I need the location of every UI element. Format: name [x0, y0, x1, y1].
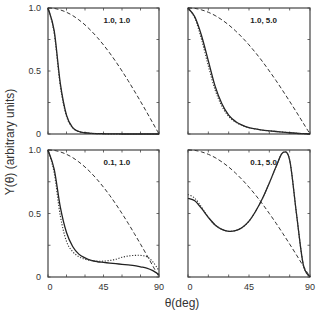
panel-top-right: 1.0, 5.0 [188, 8, 310, 134]
y-tick-label: 1.0 [28, 3, 41, 13]
panel-frame [48, 150, 159, 277]
figure: Y(θ) (arbitrary units) θ(deg) 00.51.01.0… [0, 0, 317, 315]
y-axis-title: Y(θ) (arbitrary units) [3, 89, 17, 196]
y-tick-label: 0 [36, 272, 41, 282]
x-tick-label: 45 [98, 282, 108, 292]
panel-frame [188, 8, 310, 134]
panel-label: 1.0, 1.0 [103, 16, 130, 25]
y-tick-label: 1.0 [28, 145, 41, 155]
x-tick-label: 0 [47, 282, 52, 292]
x-tick-label: 0 [187, 282, 192, 292]
panel-label: 0.1, 1.0 [103, 158, 130, 167]
series-dotted-line [48, 8, 159, 134]
x-tick-label: 45 [244, 282, 254, 292]
series-dashed-line [48, 150, 159, 277]
series-solid-line [188, 8, 310, 134]
x-axis-title: θ(deg) [165, 296, 200, 310]
panel-bottom-right: 045900.1, 5.0 [187, 150, 315, 292]
series-dashed-line [48, 8, 159, 134]
y-tick-label: 0.5 [28, 209, 41, 219]
panel-frame [48, 8, 159, 134]
x-tick-label: 90 [154, 282, 164, 292]
y-tick-label: 0.5 [28, 66, 41, 76]
panel-top-left: 00.51.01.0, 1.0 [28, 3, 159, 139]
panel-label: 0.1, 5.0 [250, 158, 277, 167]
series-dotted-line [48, 150, 159, 271]
panel-bottom-left: 00.51.0045900.1, 1.0 [28, 145, 164, 292]
series-dashed-line [188, 8, 310, 134]
y-tick-label: 0 [36, 129, 41, 139]
series-solid-line [48, 8, 159, 134]
series-solid-line [48, 150, 159, 274]
x-tick-label: 90 [305, 282, 315, 292]
panel-label: 1.0, 5.0 [250, 16, 277, 25]
series-dotted-line [188, 8, 310, 134]
